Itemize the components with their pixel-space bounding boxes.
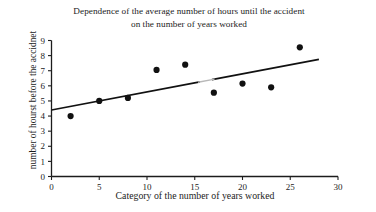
y-tick-label: 5	[41, 96, 46, 106]
data-point	[182, 62, 188, 68]
y-tick-label-group: 0123456789	[41, 36, 46, 182]
x-tick-label: 30	[334, 182, 344, 192]
x-tick-label: 15	[190, 182, 200, 192]
data-point	[268, 84, 274, 90]
y-tick-label: 2	[41, 141, 46, 151]
scatter-chart: Dependence of the average number of hour…	[0, 0, 376, 212]
y-tick-label: 6	[41, 81, 46, 91]
y-tick-label: 1	[41, 157, 46, 167]
y-tick-label: 7	[41, 66, 46, 76]
x-tick-label: 20	[238, 182, 248, 192]
data-point	[68, 113, 74, 119]
x-tick-label: 0	[49, 182, 54, 192]
x-tick-label: 5	[97, 182, 102, 192]
data-point	[125, 95, 131, 101]
y-tick-label: 9	[41, 36, 46, 46]
data-point	[211, 90, 217, 96]
data-point	[153, 67, 159, 73]
data-point	[239, 80, 245, 86]
plot-area: 0123456789 051015202530	[0, 0, 376, 212]
data-point	[297, 44, 303, 50]
data-point	[96, 98, 102, 104]
x-tick-label-group: 051015202530	[49, 182, 343, 192]
data-point-group	[68, 44, 303, 119]
y-tick-label: 0	[41, 172, 46, 182]
trend-line-gap	[198, 79, 215, 82]
x-tick-label: 25	[286, 182, 296, 192]
y-tick-label: 8	[41, 51, 46, 61]
x-tick-label: 10	[143, 182, 153, 192]
trend-line-segment	[212, 59, 319, 79]
y-tick-label: 4	[41, 111, 46, 121]
y-tick-label: 3	[41, 126, 46, 136]
